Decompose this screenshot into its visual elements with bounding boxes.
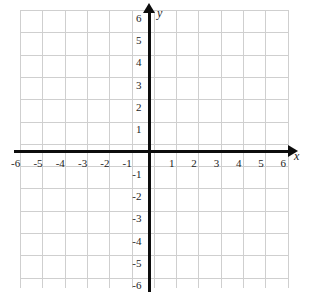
grid-line-horizontal: [20, 278, 288, 279]
y-axis-tick-label: -6: [122, 279, 142, 291]
grid-line-vertical: [20, 10, 21, 288]
x-axis-line: [14, 150, 290, 153]
grid-line-horizontal: [20, 99, 288, 100]
y-axis-tick-label: 1: [122, 123, 142, 135]
grid-line-horizontal: [20, 255, 288, 256]
x-axis-tick-label: -6: [6, 157, 26, 169]
grid-line-horizontal: [20, 211, 288, 212]
grid-line-vertical: [176, 10, 177, 288]
grid-line-horizontal: [20, 55, 288, 56]
x-axis-tick-label: -1: [117, 157, 137, 169]
x-axis-tick-label: -3: [73, 157, 93, 169]
grid-line-vertical: [65, 10, 66, 288]
x-axis-tick-label: 3: [206, 157, 226, 169]
grid-line-horizontal: [20, 77, 288, 78]
y-axis-tick-label: 3: [122, 79, 142, 91]
grid-line-vertical: [198, 10, 199, 288]
y-axis-tick-label: -4: [122, 235, 142, 247]
y-axis-tick-label: -5: [122, 257, 142, 269]
y-axis-name-label: y: [157, 7, 162, 19]
y-axis-tick-label: 2: [122, 101, 142, 113]
grid-line-horizontal: [20, 122, 288, 123]
grid-line-horizontal: [20, 144, 288, 145]
x-axis-tick-label: -4: [50, 157, 70, 169]
y-axis-arrow-icon: [143, 3, 155, 13]
grid-line-vertical: [265, 10, 266, 288]
grid-line-vertical: [42, 10, 43, 288]
y-axis-tick-label: 4: [122, 56, 142, 68]
y-axis-tick-label: 5: [122, 34, 142, 46]
x-axis-tick-label: 6: [273, 157, 293, 169]
grid-line-vertical: [243, 10, 244, 288]
grid-line-horizontal: [20, 233, 288, 234]
coordinate-plane-figure: -6-5-4-3-2-1123456 654321-1-2-3-4-5-6 x …: [0, 0, 310, 304]
y-axis-tick-label: -1: [122, 168, 142, 180]
x-axis-tick-label: 5: [251, 157, 271, 169]
x-axis-name-label: x: [294, 150, 299, 162]
x-axis-tick-label: 4: [229, 157, 249, 169]
y-axis-tick-label: 6: [122, 12, 142, 24]
grid-line-vertical: [87, 10, 88, 288]
x-axis-tick-label: 2: [184, 157, 204, 169]
grid-line-vertical: [154, 10, 155, 288]
x-axis-tick-label: 1: [162, 157, 182, 169]
grid-line-vertical: [221, 10, 222, 288]
grid-line-vertical: [109, 10, 110, 288]
grid-line-horizontal: [20, 32, 288, 33]
y-axis-tick-label: -2: [122, 190, 142, 202]
y-axis-tick-label: -3: [122, 212, 142, 224]
x-axis-tick-label: -5: [28, 157, 48, 169]
y-axis-line: [148, 10, 151, 292]
x-axis-tick-label: -2: [95, 157, 115, 169]
grid-line-horizontal: [20, 188, 288, 189]
grid-area: [20, 10, 288, 288]
